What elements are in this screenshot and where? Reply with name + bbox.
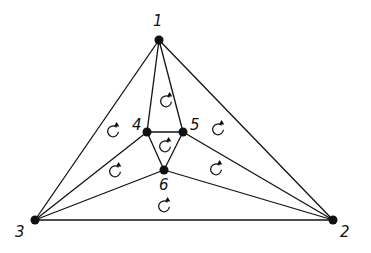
edge-3-6 xyxy=(35,170,164,220)
rotation-arrow-icon xyxy=(159,197,171,212)
node-5 xyxy=(179,128,188,137)
node-label-5: 5 xyxy=(190,116,200,134)
node-label-1: 1 xyxy=(153,12,163,30)
node-label-3: 3 xyxy=(15,223,25,241)
node-label-6: 6 xyxy=(159,176,169,194)
node-2 xyxy=(329,216,338,225)
rotation-arrow-icon xyxy=(213,120,225,135)
edge-2-5 xyxy=(183,132,333,220)
graph-diagram: 123456 xyxy=(0,0,371,253)
node-3 xyxy=(31,216,40,225)
node-label-4: 4 xyxy=(132,116,142,134)
rotation-arrow-icon xyxy=(161,92,173,107)
node-4 xyxy=(143,128,152,137)
rotation-arrow-icon xyxy=(110,162,122,177)
node-6 xyxy=(160,166,169,175)
edge-3-4 xyxy=(35,132,147,220)
rotation-arrow-icon xyxy=(211,160,223,175)
nodes-layer: 123456 xyxy=(15,12,350,241)
rotation-arrow-icon xyxy=(108,122,120,137)
rotation-arrow-icon xyxy=(160,137,172,152)
edge-2-6 xyxy=(164,170,333,220)
node-label-2: 2 xyxy=(340,223,350,241)
edge-1-5 xyxy=(159,40,183,132)
node-1 xyxy=(155,36,164,45)
